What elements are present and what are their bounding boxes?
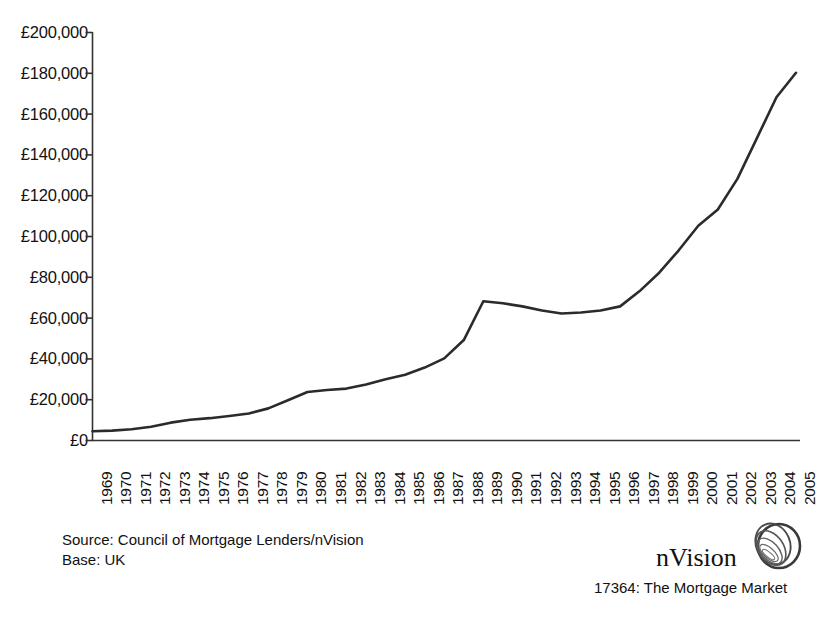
axis-lines (92, 32, 800, 441)
chart-caption: 17364: The Mortgage Market (594, 579, 787, 597)
nvision-wordmark: nVision (656, 545, 737, 571)
nvision-branding: nVision (648, 512, 815, 612)
data-series-line (93, 73, 797, 431)
source-line: Source: Council of Mortgage Lenders/nVis… (62, 530, 364, 550)
y-axis-ticks (86, 33, 93, 441)
source-note: Source: Council of Mortgage Lenders/nVis… (62, 530, 364, 569)
base-line: Base: UK (62, 550, 364, 570)
nvision-globe-icon (746, 518, 804, 576)
